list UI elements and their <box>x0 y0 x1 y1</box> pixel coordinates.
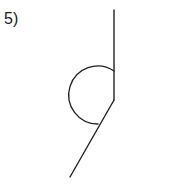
oblique-ray-line <box>70 100 114 177</box>
reflex-angle-arc <box>69 66 114 124</box>
angle-diagram <box>0 0 196 185</box>
angle-figure-canvas: 5) <box>0 0 196 185</box>
